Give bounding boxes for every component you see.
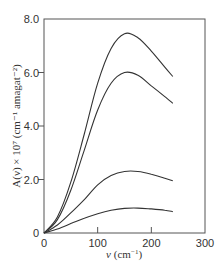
y-tick-label: 2.0 <box>24 174 39 186</box>
plot-frame <box>44 19 205 233</box>
axis-ticks <box>38 73 151 234</box>
x-tick-label: 0 <box>41 237 47 249</box>
y-tick-label: 8.0 <box>24 13 39 25</box>
curve-1 <box>44 33 173 233</box>
y-axis-title: A(ν) × 10⁷ (cm⁻¹ amagat⁻²) <box>10 64 23 188</box>
y-tick-label: 0 <box>33 227 39 239</box>
data-curves <box>44 33 173 233</box>
y-tick-label: 4.0 <box>24 120 39 132</box>
curve-3 <box>44 171 173 233</box>
x-tick-label: 200 <box>142 237 160 249</box>
x-tick-label: 100 <box>88 237 106 249</box>
x-tick-label: 300 <box>196 237 214 249</box>
x-axis-title: ν(cm−1) <box>106 248 142 261</box>
y-tick-label: 6.0 <box>24 67 39 79</box>
absorption-chart: 010020030002.04.06.08.0 ν(cm−1) A(ν) × 1… <box>0 0 223 274</box>
tick-labels: 010020030002.04.06.08.0 <box>24 13 214 249</box>
